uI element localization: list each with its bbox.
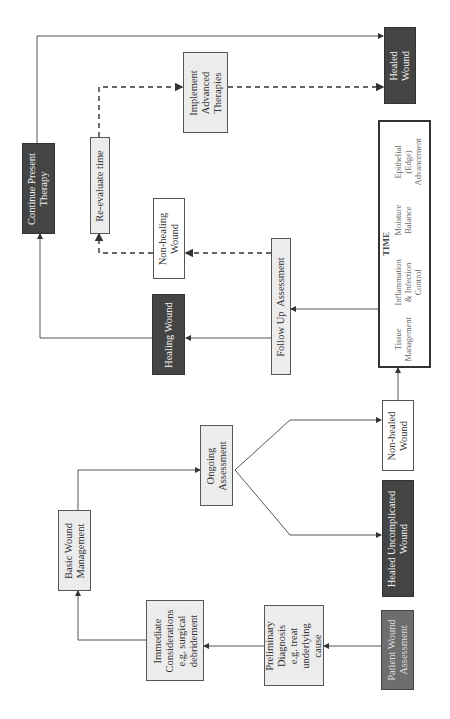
time-item-tissue: Tissue Management [393, 317, 413, 361]
node-label: Healed Uncomplicated Wound [386, 490, 410, 587]
node-label: Preliminary Diagnosis e.g. treat underly… [264, 621, 324, 671]
node-label: Healed Wound [388, 50, 412, 80]
healed-wound-node: Healed Wound [384, 27, 416, 104]
time-framework-box: TIME Tissue Management Inflammation & In… [378, 120, 431, 368]
node-label: Non-healing Wound [157, 212, 181, 265]
healed-uncomplicated-wound-node: Healed Uncomplicated Wound [382, 480, 414, 597]
node-label: Ongoing Assessment [205, 441, 229, 491]
node-label: Re-evaluate time [94, 150, 106, 221]
time-item-moisture: Moisture Balance [393, 205, 413, 236]
node-label: Basic Wound Management [63, 523, 87, 579]
non-healing-wound-node: Non-healing Wound [153, 198, 185, 279]
immediate-considerations-node: Immediate Considerations e.g. surgical d… [146, 600, 204, 681]
node-label: Non-healed Wound [386, 411, 410, 460]
node-label: Continue Present Therapy [27, 152, 51, 224]
node-label: Follow Up Assessment [275, 257, 287, 356]
ongoing-assessment-node: Ongoing Assessment [200, 425, 233, 506]
node-label: Healing Wound [163, 302, 175, 368]
patient-wound-assessment-node: Patient Wound Assessment [381, 610, 414, 690]
node-label: Implement Advanced Therapies [188, 70, 224, 116]
time-item-inflammation: Inflammation & Infection Control [393, 259, 423, 305]
time-item-epithelial: Epithelial (Edge) Advancement [393, 138, 423, 185]
node-label: Patient Wound Assessment [386, 619, 410, 681]
follow-up-assessment-node: Follow Up Assessment [271, 238, 291, 375]
continue-present-therapy-node: Continue Present Therapy [22, 143, 55, 234]
healing-wound-node: Healing Wound [152, 294, 185, 375]
basic-wound-management-node: Basic Wound Management [58, 510, 91, 591]
preliminary-diagnosis-node: Preliminary Diagnosis e.g. treat underly… [264, 605, 324, 686]
implement-advanced-therapies-node: Implement Advanced Therapies [183, 52, 228, 133]
non-healed-wound-node: Non-healed Wound [382, 400, 414, 471]
time-title: TIME [381, 121, 391, 368]
re-evaluate-time-node: Re-evaluate time [90, 137, 110, 234]
node-label: Immediate Considerations e.g. surgical d… [151, 609, 199, 672]
